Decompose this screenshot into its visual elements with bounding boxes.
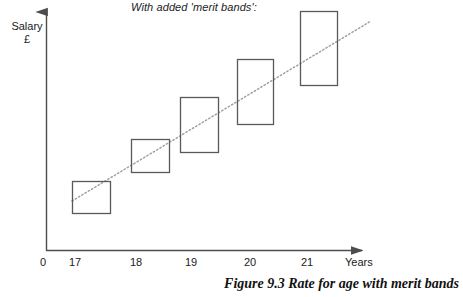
x-axis-tick-20: 20 — [238, 256, 262, 268]
x-axis-tick-21: 21 — [295, 256, 319, 268]
x-axis-label: Years — [345, 256, 373, 268]
x-axis-tick-18: 18 — [124, 256, 148, 268]
y-axis-label-unit: £ — [8, 33, 46, 46]
merit-band-box-21 — [301, 12, 338, 86]
y-axis-label: Salary £ — [8, 20, 46, 46]
merit-band-box-18 — [132, 140, 170, 173]
figure-caption: Figure 9.3 Rate for age with merit bands — [0, 276, 459, 292]
chart-canvas — [0, 0, 463, 297]
x-axis-tick-17: 17 — [63, 256, 87, 268]
chart-title: With added 'merit bands': — [131, 1, 257, 13]
merit-band-box-20 — [238, 60, 274, 125]
trend-line — [72, 21, 371, 201]
x-axis-origin-label: 0 — [31, 256, 55, 268]
x-axis-tick-19: 19 — [179, 256, 203, 268]
y-axis-label-main: Salary — [11, 20, 42, 32]
figure-container: With added 'merit bands': Salary £ 0 17 … — [0, 0, 463, 297]
